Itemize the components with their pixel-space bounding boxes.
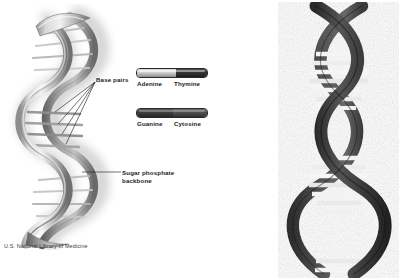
label-guanine: Guanine	[136, 120, 174, 127]
base-pair-legend: Adenine Thymine Guanine Cytosine	[136, 68, 222, 127]
right-diagram-panel	[276, 0, 399, 280]
legend-pair-adenine-thymine: Adenine Thymine	[136, 68, 222, 87]
base-pair-bar-gc	[136, 108, 208, 118]
label-cytosine: Cytosine	[174, 120, 201, 127]
left-diagram-panel: Base pairs Sugar phosphate backbone	[0, 0, 150, 250]
label-adenine: Adenine	[136, 80, 174, 87]
dna-figure-root: Base pairs Sugar phosphate backbone Aden…	[0, 0, 399, 280]
base-pair-bar-at	[136, 68, 208, 78]
attribution-text: U.S. National Library of Medicine	[4, 243, 88, 249]
legend-labels-at: Adenine Thymine	[136, 80, 214, 87]
bar-highlight	[139, 110, 205, 112]
label-thymine: Thymine	[174, 80, 200, 87]
legend-pair-guanine-cytosine: Guanine Cytosine	[136, 108, 222, 127]
base-pairs-callout-label: Base pairs	[96, 76, 129, 84]
legend-labels-gc: Guanine Cytosine	[136, 120, 214, 127]
dna-photographic-helix-icon	[276, 2, 399, 278]
sugar-phosphate-callout-label: Sugar phosphate backbone	[122, 169, 184, 184]
dna-ribbon-helix-icon	[6, 4, 150, 250]
bar-highlight	[139, 70, 205, 72]
